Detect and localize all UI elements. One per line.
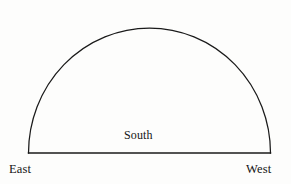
- dome-diagram-svg: [0, 0, 291, 184]
- cardinal-label-south: South: [124, 129, 153, 141]
- cardinal-label-east: East: [9, 163, 31, 176]
- cardinal-label-west: West: [246, 163, 271, 176]
- horizon-diagram-figure: East South West: [0, 0, 291, 184]
